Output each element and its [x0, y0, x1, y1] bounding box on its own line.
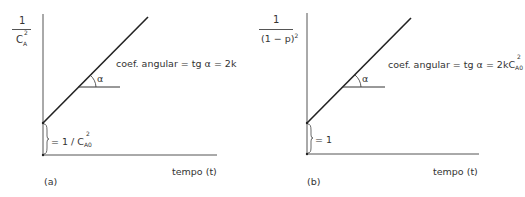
- panel-label-b: (b): [307, 176, 320, 187]
- y-label-denominator-b: (1 − p)2: [261, 32, 298, 44]
- slope-label-b: coef. angular = tg α = 2kC2A0: [388, 58, 525, 70]
- y-label-fraction-bar-a: [12, 29, 31, 30]
- data-line-a: [43, 17, 148, 123]
- y-label-fraction-bar-b: [259, 29, 293, 30]
- intercept-label-b: = 1: [315, 134, 332, 145]
- y-label-den-scripts-a: 2A: [23, 33, 30, 43]
- slope-label-a: coef. angular = tg α = 2k: [116, 58, 236, 69]
- angle-symbol-a: α: [97, 73, 103, 84]
- y-label-numerator-b: 1: [273, 14, 279, 25]
- angle-arc-b: [355, 75, 361, 87]
- x-label-b: tempo (t): [433, 166, 478, 177]
- y-label-denominator-a: C2A: [16, 33, 30, 45]
- intercept-brace-a: [44, 124, 49, 154]
- y-label-numerator-a: 1: [19, 15, 25, 26]
- data-line-b: [307, 18, 411, 123]
- intercept-label-a: = 1 / C2A0: [51, 135, 96, 147]
- angle-symbol-b: α: [362, 73, 368, 84]
- y-label-den-text-a: C: [16, 34, 23, 45]
- x-label-a: tempo (t): [172, 166, 217, 177]
- panel-label-a: (a): [44, 176, 57, 187]
- angle-arc-a: [90, 75, 96, 87]
- intercept-brace-b: [308, 124, 313, 153]
